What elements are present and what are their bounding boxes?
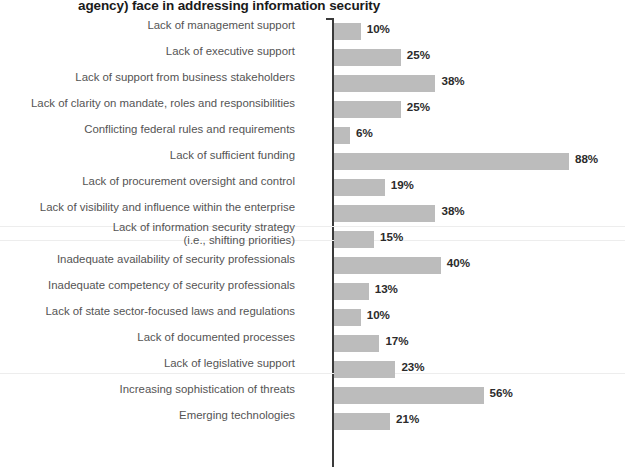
chart-page: agency) face in addressing information s… bbox=[0, 0, 625, 467]
bar bbox=[334, 153, 569, 170]
bar bbox=[334, 75, 435, 92]
bar bbox=[334, 231, 374, 248]
bar-value-label: 15% bbox=[380, 230, 403, 243]
plot-area: Lack of management support10%Lack of exe… bbox=[0, 18, 625, 467]
bar-value-label: 13% bbox=[375, 282, 398, 295]
table-row: Conflicting federal rules and requiremen… bbox=[0, 123, 625, 149]
bar-category-label: Inadequate availability of security prof… bbox=[0, 253, 295, 266]
table-row: Lack of management support10% bbox=[0, 19, 625, 45]
bar-category-label: Lack of executive support bbox=[0, 45, 295, 58]
bar bbox=[334, 309, 361, 326]
bar-category-label: Lack of support from business stakeholde… bbox=[0, 71, 295, 84]
bar bbox=[334, 23, 361, 40]
bar-category-label: Lack of information security strategy (i… bbox=[0, 221, 295, 246]
bar bbox=[334, 101, 401, 118]
bar-category-label: Increasing sophistication of threats bbox=[0, 383, 295, 396]
bar bbox=[334, 257, 441, 274]
bar-category-label: Emerging technologies bbox=[0, 409, 295, 422]
bar-category-label: Lack of procurement oversight and contro… bbox=[0, 175, 295, 188]
table-row: Increasing sophistication of threats56% bbox=[0, 383, 625, 409]
bar-value-label: 38% bbox=[441, 74, 464, 87]
bar-value-label: 19% bbox=[391, 178, 414, 191]
table-row: Lack of clarity on mandate, roles and re… bbox=[0, 97, 625, 123]
bar-value-label: 6% bbox=[356, 126, 373, 139]
table-row: Emerging technologies21% bbox=[0, 409, 625, 435]
bar-category-label: Lack of visibility and influence within … bbox=[0, 201, 295, 214]
table-row: Inadequate availability of security prof… bbox=[0, 253, 625, 279]
bar-value-label: 25% bbox=[407, 100, 430, 113]
bar-category-label: Inadequate competency of security profes… bbox=[0, 279, 295, 292]
bar bbox=[334, 49, 401, 66]
bar-value-label: 10% bbox=[367, 308, 390, 321]
table-row: Lack of state sector-focused laws and re… bbox=[0, 305, 625, 331]
bar-value-label: 38% bbox=[441, 204, 464, 217]
bar bbox=[334, 413, 390, 430]
table-row: Lack of executive support25% bbox=[0, 45, 625, 71]
bar-value-label: 21% bbox=[396, 412, 419, 425]
bar bbox=[334, 127, 350, 144]
table-row: Lack of support from business stakeholde… bbox=[0, 71, 625, 97]
bar-category-label: Lack of legislative support bbox=[0, 357, 295, 370]
bar-value-label: 23% bbox=[401, 360, 424, 373]
bar-category-label: Lack of state sector-focused laws and re… bbox=[0, 305, 295, 318]
bar-category-label: Lack of clarity on mandate, roles and re… bbox=[0, 97, 295, 110]
bar bbox=[334, 283, 369, 300]
page-title: agency) face in addressing information s… bbox=[78, 0, 380, 13]
table-row: Lack of procurement oversight and contro… bbox=[0, 175, 625, 201]
bar-value-label: 40% bbox=[447, 256, 470, 269]
bar bbox=[334, 335, 379, 352]
bar-category-label: Conflicting federal rules and requiremen… bbox=[0, 123, 295, 136]
bar bbox=[334, 387, 484, 404]
bar-value-label: 56% bbox=[490, 386, 513, 399]
bar-category-label: Lack of management support bbox=[0, 19, 295, 32]
bar-value-label: 88% bbox=[575, 152, 598, 165]
table-row: Lack of sufficient funding88% bbox=[0, 149, 625, 175]
bar-value-label: 25% bbox=[407, 48, 430, 61]
bar-value-label: 10% bbox=[367, 22, 390, 35]
bar bbox=[334, 179, 385, 196]
bar-value-label: 17% bbox=[385, 334, 408, 347]
table-row: Inadequate competency of security profes… bbox=[0, 279, 625, 305]
table-row: Lack of information security strategy (i… bbox=[0, 227, 625, 253]
bar bbox=[334, 205, 435, 222]
table-row: Lack of legislative support23% bbox=[0, 357, 625, 383]
bar-category-label: Lack of sufficient funding bbox=[0, 149, 295, 162]
bar bbox=[334, 361, 395, 378]
table-row: Lack of documented processes17% bbox=[0, 331, 625, 357]
bar-category-label: Lack of documented processes bbox=[0, 331, 295, 344]
